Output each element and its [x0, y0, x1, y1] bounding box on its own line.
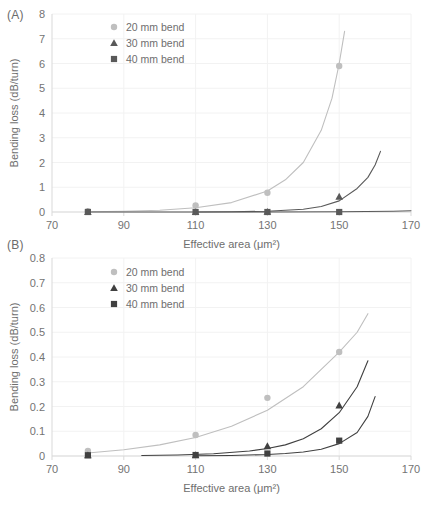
data-point-square: [85, 209, 91, 215]
y-axis-tick-label: 0: [39, 206, 45, 218]
data-point-triangle: [335, 401, 343, 408]
legend-marker-square: [111, 56, 117, 62]
x-axis-tick-label: 130: [258, 463, 276, 475]
data-point-circle: [264, 395, 270, 401]
x-axis-tick-label: 150: [330, 463, 348, 475]
panel-a-plot: 0123456787090110130150170Effective area …: [0, 0, 430, 256]
data-point-circle: [192, 202, 198, 208]
legend-label: 20 mm bend: [126, 266, 185, 278]
legend-marker-triangle: [110, 39, 118, 46]
figure-bending-loss: (A) 0123456787090110130150170Effective a…: [0, 0, 430, 512]
x-axis-tick-label: 70: [46, 463, 58, 475]
y-axis-tick-label: 0.4: [30, 351, 45, 363]
x-axis-tick-label: 110: [187, 219, 205, 231]
legend-label: 30 mm bend: [126, 282, 185, 294]
data-point-square: [193, 452, 199, 458]
data-point-square: [193, 209, 199, 215]
data-point-circle: [336, 63, 342, 69]
data-point-triangle: [335, 193, 343, 200]
legend-marker-circle: [111, 269, 117, 275]
legend-label: 40 mm bend: [126, 298, 185, 310]
y-axis-tick-label: 0.7: [30, 277, 45, 289]
x-axis-tick-label: 90: [118, 219, 130, 231]
x-axis-tick-label: 150: [330, 219, 348, 231]
data-point-square: [336, 438, 342, 444]
x-axis-title: Effective area (μm²): [183, 482, 280, 494]
series-curve: [88, 314, 368, 453]
x-axis-tick-label: 70: [46, 219, 58, 231]
series-curve: [196, 397, 376, 456]
legend-label: 20 mm bend: [126, 21, 185, 33]
x-axis-tick-label: 170: [402, 219, 420, 231]
y-axis-title: Bending loss (dB/turn): [8, 303, 20, 412]
y-axis-title: Bending loss (dB/turn): [8, 59, 20, 168]
y-axis-tick-label: 7: [39, 33, 45, 45]
series-curve: [196, 151, 381, 212]
legend-label: 30 mm bend: [126, 37, 185, 49]
x-axis-tick-label: 130: [258, 219, 276, 231]
data-point-circle: [264, 189, 270, 195]
data-point-triangle: [264, 442, 272, 449]
y-axis-tick-label: 0.2: [30, 401, 45, 413]
x-axis-tick-label: 110: [187, 463, 205, 475]
legend-label: 40 mm bend: [126, 53, 185, 65]
y-axis-tick-label: 0.6: [30, 302, 45, 314]
y-axis-tick-label: 8: [39, 8, 45, 20]
data-point-square: [85, 452, 91, 458]
y-axis-tick-label: 5: [39, 82, 45, 94]
data-point-circle: [336, 349, 342, 355]
y-axis-tick-label: 0.8: [30, 252, 45, 264]
chart-panel-a: (A) 0123456787090110130150170Effective a…: [0, 0, 430, 256]
y-axis-tick-label: 6: [39, 58, 45, 70]
legend-marker-circle: [111, 24, 117, 30]
y-axis-tick-label: 3: [39, 132, 45, 144]
x-axis-tick-label: 90: [118, 463, 130, 475]
y-axis-tick-label: 1: [39, 181, 45, 193]
data-point-circle: [192, 432, 198, 438]
data-point-square: [264, 209, 270, 215]
y-axis-tick-label: 2: [39, 157, 45, 169]
panel-b-plot: 00.10.20.30.40.50.60.70.8709011013015017…: [0, 238, 430, 512]
y-axis-tick-label: 4: [39, 107, 45, 119]
y-axis-tick-label: 0.5: [30, 326, 45, 338]
data-point-square: [264, 450, 270, 456]
legend-marker-triangle: [110, 284, 118, 291]
chart-panel-b: (B) 00.10.20.30.40.50.60.70.870901101301…: [0, 238, 430, 512]
data-point-square: [336, 209, 342, 215]
y-axis-tick-label: 0: [39, 450, 45, 462]
y-axis-tick-label: 0.3: [30, 376, 45, 388]
legend-marker-square: [111, 301, 117, 307]
x-axis-tick-label: 170: [402, 463, 420, 475]
y-axis-tick-label: 0.1: [30, 425, 45, 437]
